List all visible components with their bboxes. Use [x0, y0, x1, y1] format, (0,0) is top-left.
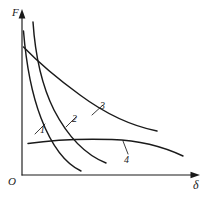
y-axis-arrow-icon: [19, 9, 26, 19]
origin-label: O: [8, 176, 16, 187]
curve-label-4: 4: [124, 155, 129, 165]
curve-3: [24, 47, 158, 131]
curve-1: [24, 31, 82, 171]
leader-line-4: [123, 141, 128, 154]
x-axis-label: δ: [193, 179, 199, 191]
curve-label-1: 1: [40, 125, 45, 135]
figure-container: F δ O 1 2 3 4: [0, 0, 209, 197]
curve-label-3: 3: [100, 101, 105, 111]
plot-canvas: [0, 0, 209, 197]
y-axis-label: F: [12, 7, 19, 18]
curve-4: [28, 139, 183, 156]
curve-label-2: 2: [72, 114, 77, 124]
